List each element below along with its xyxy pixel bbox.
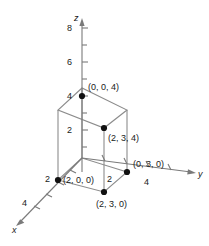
dot-0-0-4 [79,93,85,99]
point-label-2-0-0: (2, 0, 0) [63,176,94,185]
x-tick-label-4: 4 [22,199,27,208]
y-axis-label: y [198,170,203,179]
z-tick-label-4: 4 [67,92,72,101]
x-tick-3 [46,194,52,197]
x-axis-label: x [12,226,17,235]
y-axis-arrowhead [187,169,196,174]
z-tick-label-6: 6 [67,58,72,67]
figure-canvas [0,0,209,246]
point-label-0-0-4: (0, 0, 4) [88,83,119,92]
dot-2-3-4 [101,125,107,131]
dot-2-3-0 [101,189,107,195]
dot-0-3-0 [124,169,130,175]
y-tick-label-4: 4 [144,178,149,187]
coordinate-system-figure: z y x 8 6 4 2 2 4 2 4 (0, 0, 4) (2, 3, 4… [0,0,209,246]
point-label-2-3-4: (2, 3, 4) [108,134,139,143]
axis-ticks [34,28,171,209]
z-tick-label-8: 8 [67,24,72,33]
point-label-2-3-0: (2, 3, 0) [96,200,127,209]
x-tick-label-2: 2 [45,175,50,184]
x-tick-1 [70,170,76,173]
point-label-0-3-0: (0, 3, 0) [133,160,164,169]
z-tick-label-2: 2 [67,126,72,135]
y-tick-label-2: 2 [107,175,112,184]
z-axis-label: z [74,14,79,23]
z-axis-arrowhead [79,18,84,26]
axis-arrowheads [16,18,196,226]
dot-2-0-0 [55,177,61,183]
x-axis-arrowhead [16,219,24,226]
x-tick-4 [34,206,40,209]
x-axis-line [21,158,82,221]
